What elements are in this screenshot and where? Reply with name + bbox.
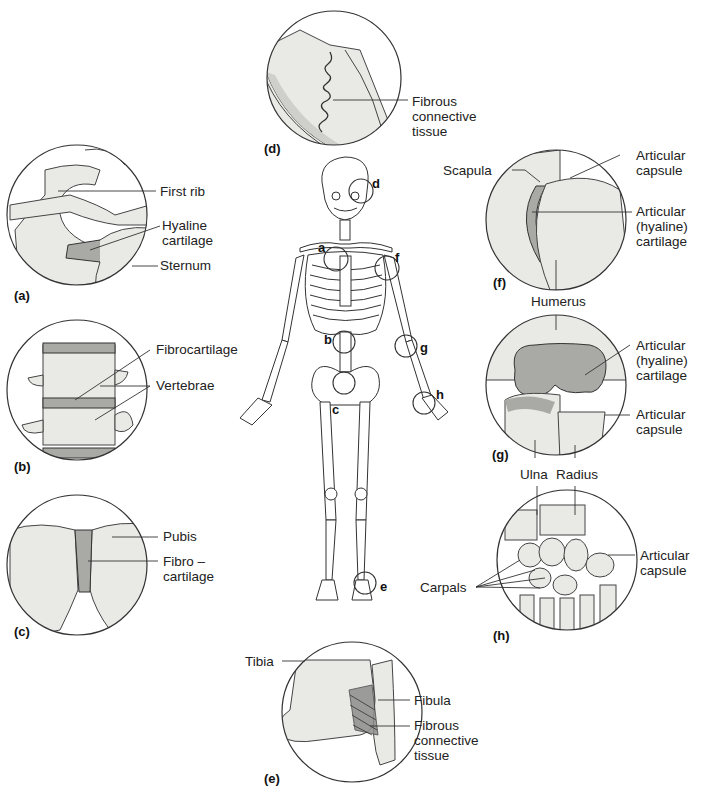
label-b-vertebrae: Vertebrae (156, 378, 215, 393)
panel-f-shoulder-illustration (480, 150, 632, 290)
marker-g: g (420, 340, 428, 355)
label-f-scapula: Scapula (443, 163, 492, 178)
label-d-fibrous-connective-tissue: Fibrous connective tissue (412, 94, 477, 139)
label-e-fibrous-connective-tissue: Fibrous connective tissue (414, 718, 479, 763)
panel-id-a: (a) (14, 288, 30, 303)
label-e-tibia: Tibia (245, 654, 274, 669)
panel-g-elbow-illustration (480, 310, 630, 460)
skeleton-illustration (240, 157, 448, 600)
panel-d-suture-illustration (240, 11, 408, 150)
panel-h-wrist-illustration (476, 486, 637, 638)
panel-b-vertebrae-illustration (7, 320, 150, 460)
panel-a-rib-illustration (7, 145, 160, 290)
label-c-pubis: Pubis (163, 529, 197, 544)
label-a-first-rib: First rib (160, 184, 205, 199)
marker-d: d (372, 176, 380, 191)
label-g-articular-hyaline-cartilage: Articular (hyaline) cartilage (636, 338, 688, 383)
label-a-hyaline-cartilage: Hyaline cartilage (162, 218, 213, 248)
panel-c-pubis-illustration (7, 495, 158, 640)
label-h-carpals: Carpals (420, 580, 467, 595)
label-c-fibrocartilage: Fibro – cartilage (163, 554, 214, 584)
panel-id-h: (h) (493, 628, 510, 643)
panel-id-c: (c) (14, 624, 30, 639)
marker-a: a (318, 240, 325, 255)
panel-id-f: (f) (493, 275, 506, 290)
panel-id-d: (d) (264, 141, 281, 156)
label-e-fibula: Fibula (414, 693, 451, 708)
label-f-articular-capsule: Articular capsule (636, 148, 686, 178)
label-f-articular-hyaline-cartilage: Articular (hyaline) cartilage (636, 204, 688, 249)
label-b-fibrocartilage: Fibrocartilage (156, 342, 238, 357)
joint-diagram-canvas (0, 0, 704, 789)
label-a-sternum: Sternum (160, 258, 211, 273)
marker-b: b (324, 332, 332, 347)
label-g-ulna: Ulna (520, 467, 548, 482)
label-g-radius: Radius (556, 467, 598, 482)
marker-c: c (332, 402, 339, 417)
label-f-humerus: Humerus (531, 294, 586, 309)
label-h-articular-capsule: Articular capsule (640, 548, 690, 578)
panel-id-e: (e) (264, 771, 280, 786)
marker-f: f (395, 250, 399, 265)
panel-id-g: (g) (492, 447, 509, 462)
label-g-articular-capsule: Articular capsule (636, 407, 686, 437)
panel-e-ankle-illustration (279, 642, 422, 782)
marker-h: h (436, 387, 444, 402)
marker-e: e (380, 579, 387, 594)
panel-id-b: (b) (14, 459, 31, 474)
